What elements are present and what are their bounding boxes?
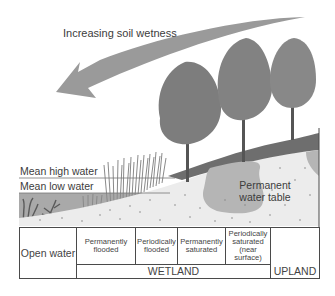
zone-upland: UPLAND <box>271 265 320 279</box>
zone-permanently-saturated: Permanently saturated <box>178 228 226 265</box>
zone-periodically-saturated: Periodically saturated (near surface) <box>226 228 271 265</box>
zone-wetland: WETLAND <box>77 265 271 279</box>
mean-high-water-label: Mean high water <box>20 165 98 177</box>
tree-icon <box>218 38 272 162</box>
permanent-water-table-label: Permanent water table <box>235 179 295 203</box>
zone-classification-table: Open water Permanently flooded Periodica… <box>19 227 320 279</box>
upland-spacer <box>271 228 320 265</box>
zone-periodically-flooded: Periodically flooded <box>136 228 178 265</box>
mean-low-water-label: Mean low water <box>20 180 94 192</box>
soil-wetness-label: Increasing soil wetness <box>63 27 177 39</box>
zone-permanently-flooded: Permanently flooded <box>77 228 136 265</box>
zone-open-water: Open water <box>20 228 77 279</box>
tree-icon <box>270 38 316 140</box>
